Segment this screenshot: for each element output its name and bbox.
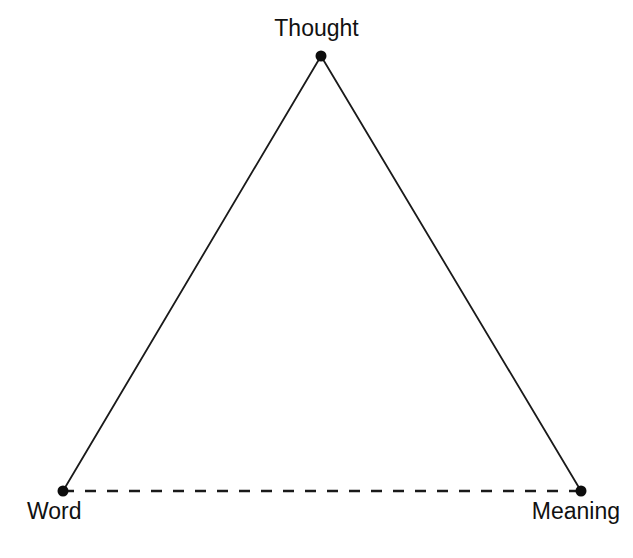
node-thought — [316, 51, 327, 62]
edge-thought-meaning — [321, 56, 581, 491]
node-meaning — [576, 486, 587, 497]
node-label-meaning: Meaning — [0, 500, 620, 523]
semiotic-triangle-diagram: Thought Word Meaning — [0, 0, 633, 558]
triangle-canvas — [0, 0, 633, 558]
edge-thought-word — [63, 56, 321, 491]
node-word — [58, 486, 69, 497]
node-label-thought: Thought — [0, 17, 633, 40]
